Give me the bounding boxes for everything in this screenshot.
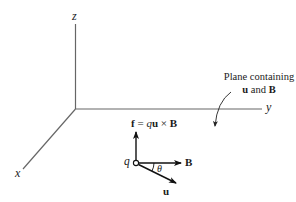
- u-vector-label: u: [163, 186, 169, 197]
- b-vector-label: B: [185, 157, 192, 168]
- eq-equals: =: [135, 117, 147, 129]
- theta-arc: [152, 163, 154, 171]
- plane-annotation: Plane containing u and B: [222, 70, 296, 96]
- x-axis-label: x: [15, 167, 20, 179]
- eq-b: B: [170, 117, 177, 129]
- x-axis: [23, 109, 76, 169]
- z-axis-label: z: [72, 10, 77, 22]
- force-equation: f = qu × B: [131, 118, 177, 129]
- eq-times: ×: [158, 117, 170, 129]
- charge-label: q: [124, 156, 130, 168]
- theta-label: θ: [157, 164, 162, 174]
- plane-annotation-line1: Plane containing: [222, 70, 296, 83]
- y-axis-label: y: [266, 101, 271, 113]
- annot-and: and: [248, 84, 268, 95]
- annot-b: B: [269, 84, 276, 95]
- plane-annotation-line2: u and B: [222, 83, 296, 96]
- charge-q-circle: [133, 160, 138, 165]
- diagram-canvas: [0, 0, 296, 202]
